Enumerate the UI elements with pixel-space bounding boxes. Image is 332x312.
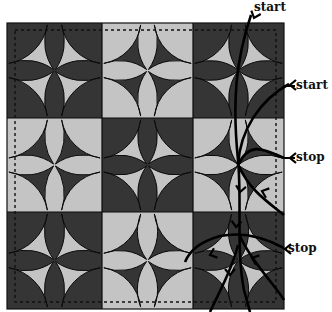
block-background <box>7 23 102 118</box>
block-0-0 <box>7 23 102 118</box>
blocks-layer <box>7 23 284 309</box>
block-1-0 <box>7 118 102 212</box>
block-background <box>102 212 193 309</box>
quilt-diagram: start start stop stop <box>0 0 332 312</box>
label-start-right: start <box>296 78 328 92</box>
label-start-top: start <box>254 0 286 14</box>
block-background <box>102 118 193 212</box>
block-1-1 <box>102 118 193 212</box>
label-stop-upper: stop <box>296 150 325 164</box>
block-0-1 <box>102 23 193 118</box>
block-background <box>7 212 102 309</box>
label-stop-lower: stop <box>288 241 317 255</box>
block-2-0 <box>7 212 102 309</box>
block-background <box>7 118 102 212</box>
block-2-1 <box>102 212 193 309</box>
block-background <box>102 23 193 118</box>
